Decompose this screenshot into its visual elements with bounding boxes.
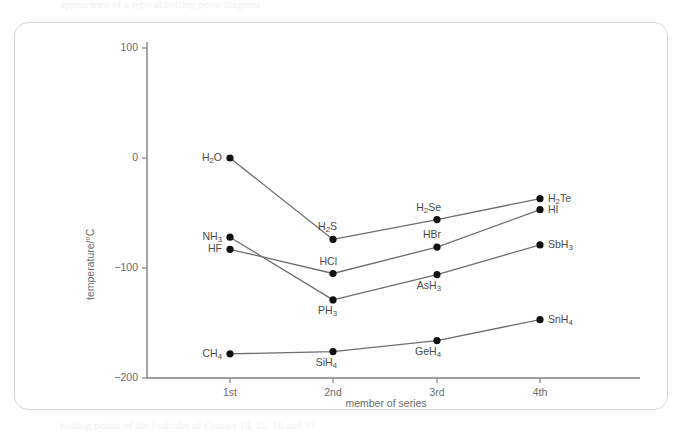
y-tick-label: −200 <box>70 371 138 383</box>
data-point <box>433 216 440 223</box>
point-label-h2o: H2O <box>202 151 222 165</box>
chart-plot-area <box>0 0 683 433</box>
x-tick-label: 4th <box>533 386 548 398</box>
x-tick-label: 1st <box>223 386 237 398</box>
point-label-ash3: AsH3 <box>417 279 441 293</box>
x-tick-label: 2nd <box>324 386 342 398</box>
data-point <box>536 241 543 248</box>
data-point <box>226 350 233 357</box>
axes-group <box>142 42 640 383</box>
x-axis-title: member of series <box>345 397 426 409</box>
point-label-sih4: SiH4 <box>316 356 337 370</box>
cropped-caption-bottom: boiling points of the hydrides of Groups… <box>60 419 316 431</box>
y-tick-label: −100 <box>70 261 138 273</box>
point-label-snh4: SnH4 <box>548 313 573 327</box>
point-label-ph3: PH3 <box>318 304 337 318</box>
point-label-ch4: CH4 <box>202 347 222 361</box>
series-lines-group <box>230 158 540 354</box>
data-point <box>536 316 543 323</box>
data-point <box>329 348 336 355</box>
data-point <box>536 195 543 202</box>
data-point <box>226 246 233 253</box>
data-point <box>536 206 543 213</box>
y-tick-label: 100 <box>70 41 138 53</box>
y-tick-label: 0 <box>70 151 138 163</box>
point-label-hbr: HBr <box>423 228 441 240</box>
point-label-geh4: GeH4 <box>415 345 441 359</box>
data-point <box>226 154 233 161</box>
data-point <box>329 296 336 303</box>
series-line-1 <box>230 210 540 274</box>
data-point <box>329 236 336 243</box>
data-point <box>329 270 336 277</box>
series-line-3 <box>230 320 540 354</box>
point-label-h2s: H2S <box>318 220 337 234</box>
point-label-hi: HI <box>548 203 559 215</box>
point-label-h2se: H2Se <box>416 201 441 215</box>
data-point <box>433 244 440 251</box>
data-point <box>433 337 440 344</box>
data-point <box>433 271 440 278</box>
data-point <box>226 234 233 241</box>
data-points-group <box>226 154 543 357</box>
point-label-sbh3: SbH3 <box>548 238 573 252</box>
x-tick-label: 3rd <box>429 386 444 398</box>
point-label-nh3: NH3 <box>202 230 222 244</box>
series-line-2 <box>230 237 540 300</box>
point-label-hcl: HCl <box>320 255 338 267</box>
y-axis-title: temperature/°C <box>84 229 96 300</box>
